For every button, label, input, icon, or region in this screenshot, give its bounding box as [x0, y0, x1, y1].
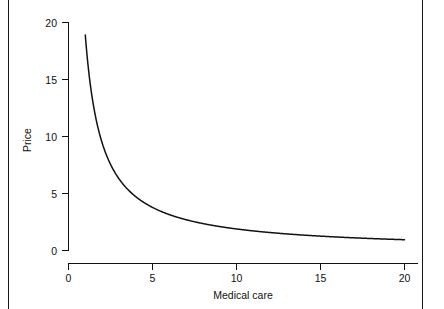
x-tick-label-0: 0	[66, 272, 72, 284]
chart-canvas: 20 15 10 5 0 Price 0 5 10 15 20	[0, 0, 444, 309]
y-tick-label-15: 15	[45, 74, 57, 86]
demand-curve-line	[85, 35, 404, 240]
x-tick-label-15: 15	[315, 272, 327, 284]
x-axis: 0 5 10 15 20 Medical care	[66, 264, 418, 302]
x-tick-label-5: 5	[150, 272, 156, 284]
x-axis-title: Medical care	[213, 289, 273, 301]
figure-page: 20 15 10 5 0 Price 0 5 10 15 20	[0, 0, 444, 309]
y-tick-label-5: 5	[51, 188, 57, 200]
demand-curve-figure: 20 15 10 5 0 Price 0 5 10 15 20	[0, 0, 444, 309]
y-axis-title: Price	[21, 128, 33, 152]
y-tick-label-0: 0	[51, 245, 57, 257]
y-tick-label-10: 10	[45, 131, 57, 143]
y-axis: 20 15 10 5 0 Price	[21, 17, 69, 257]
x-tick-label-20: 20	[399, 272, 411, 284]
x-tick-label-10: 10	[231, 272, 243, 284]
y-tick-label-20: 20	[45, 17, 57, 29]
